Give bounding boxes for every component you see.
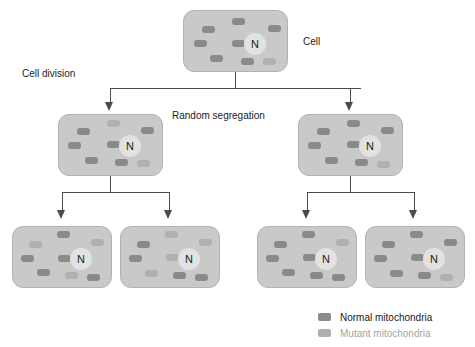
mitochondrion-normal (21, 255, 34, 262)
arrowhead-icon (57, 210, 65, 219)
connector-line (110, 176, 111, 192)
mitochondrion-normal (115, 159, 128, 166)
mitochondrion-normal (332, 274, 345, 281)
mitochondrion-normal (374, 255, 387, 262)
mitochondrion-normal (141, 127, 154, 134)
arrowhead-icon (302, 210, 310, 219)
legend-item-mutant: Mutant mitochondria (318, 325, 432, 341)
mitochondrion-normal (85, 157, 98, 164)
mitochondrion-mutant (336, 239, 349, 246)
label-random-segregation: Random segregation (172, 110, 265, 121)
arrowhead-icon (164, 210, 172, 219)
nucleus: N (423, 248, 445, 270)
nucleus: N (244, 33, 266, 55)
mitochondrion-mutant (440, 274, 453, 281)
mitochondrion-normal (347, 120, 360, 127)
mitochondrion-mutant (137, 160, 150, 167)
mitochondrion-normal (129, 255, 142, 262)
mitochondrion-normal (266, 255, 279, 262)
legend-label-mutant: Mutant mitochondria (340, 328, 431, 339)
mitochondrion-normal (268, 25, 281, 32)
mitochondrion-normal (444, 239, 457, 246)
mitochondrion-normal (317, 128, 330, 135)
mitochondrion-normal (410, 231, 423, 238)
mitochondrion-normal (274, 241, 287, 248)
mitochondrion-mutant (91, 239, 104, 246)
cell-daughter-cell-right: N (298, 114, 403, 176)
nucleus: N (178, 248, 200, 270)
mitochondrion-normal (195, 274, 208, 281)
mitochondrion-normal (68, 142, 81, 149)
connector-line (169, 192, 170, 212)
mitochondrion-mutant (377, 161, 390, 168)
mitochondrion-normal (241, 58, 254, 65)
cell-daughter-cell-left: N (58, 114, 163, 176)
mitochondrion-mutant (65, 272, 78, 279)
connector-line (307, 192, 308, 212)
cell-granddaughter-cell-4: N (365, 226, 465, 288)
nucleus-label: N (126, 140, 134, 152)
mitochondrion-normal (282, 269, 295, 276)
connector-line (414, 192, 415, 212)
legend-label-normal: Normal mitochondria (340, 312, 432, 323)
nucleus-label: N (322, 253, 330, 265)
nucleus-label: N (430, 253, 438, 265)
mitochondrion-normal (382, 241, 395, 248)
cell-granddaughter-cell-1: N (12, 226, 112, 288)
mitochondrion-normal (302, 231, 315, 238)
nucleus: N (70, 248, 92, 270)
mitochondrion-normal (37, 269, 50, 276)
cell-granddaughter-cell-3: N (257, 226, 357, 288)
legend-swatch-mutant-icon (318, 329, 331, 337)
mitochondrion-normal (355, 159, 368, 166)
mitochondrion-mutant (107, 120, 120, 127)
nucleus: N (315, 248, 337, 270)
connector-line (350, 176, 351, 192)
mitochondrion-normal (137, 241, 150, 248)
legend-item-normal: Normal mitochondria (318, 309, 432, 325)
mitochondrion-mutant (165, 231, 178, 238)
connector-line (307, 192, 415, 193)
mitochondrion-normal (57, 231, 70, 238)
mitochondrion-normal (210, 55, 223, 62)
mitochondrion-normal (308, 142, 321, 149)
mitochondrion-normal (325, 157, 338, 164)
connector-line (235, 72, 236, 88)
mitochondrion-normal (310, 272, 323, 279)
connector-line (62, 192, 63, 212)
legend-swatch-normal-icon (318, 313, 331, 321)
arrowhead-icon (409, 210, 417, 219)
label-cell-division: Cell division (22, 68, 75, 79)
nucleus-label: N (251, 38, 259, 50)
nucleus-label: N (366, 140, 374, 152)
mitochondrion-normal (202, 26, 215, 33)
mitochondrion-normal (381, 127, 394, 134)
nucleus-label: N (77, 253, 85, 265)
label-cell: Cell (303, 36, 320, 47)
mitochondrion-normal (87, 274, 100, 281)
mitochondria-segregation-diagram: NNNNNNN Cell Cell division Random segreg… (0, 0, 475, 347)
mitochondrion-normal (194, 40, 207, 47)
mitochondrion-mutant (29, 241, 42, 248)
nucleus: N (119, 135, 141, 157)
mitochondrion-mutant (263, 58, 276, 65)
mitochondrion-mutant (145, 270, 158, 277)
cell-granddaughter-cell-2: N (120, 226, 220, 288)
arrowhead-icon (105, 102, 113, 111)
mitochondrion-normal (418, 272, 431, 279)
mitochondrion-mutant (199, 239, 212, 246)
connector-line (62, 192, 170, 193)
mitochondrion-normal (390, 270, 403, 277)
mitochondrion-normal (77, 128, 90, 135)
mitochondrion-normal (173, 272, 186, 279)
connector-line (110, 88, 361, 89)
nucleus: N (359, 135, 381, 157)
legend: Normal mitochondria Mutant mitochondria (318, 309, 432, 341)
cell-parent-cell: N (183, 10, 288, 72)
mitochondrion-normal (232, 18, 245, 25)
arrowhead-icon (345, 102, 353, 111)
nucleus-label: N (185, 253, 193, 265)
